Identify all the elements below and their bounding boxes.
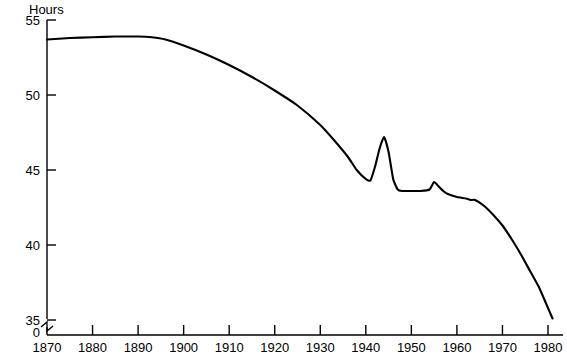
- axis-break-icon: [41, 322, 53, 331]
- series-line-0: [47, 36, 553, 318]
- chart-container: Hours 0 3540455055 187018801890190019101…: [0, 0, 567, 358]
- x-tick-label-1900: 1900: [169, 340, 198, 355]
- y-tick-label-35: 35: [26, 313, 40, 328]
- x-tick-label-1940: 1940: [351, 340, 380, 355]
- x-tick-label-1910: 1910: [215, 340, 244, 355]
- x-tick-label-1930: 1930: [306, 340, 335, 355]
- x-axis-ticks: 1870188018901900191019201930194019501960…: [33, 325, 563, 355]
- series-layer: [47, 36, 553, 318]
- y-tick-label-45: 45: [26, 163, 40, 178]
- x-tick-label-1920: 1920: [260, 340, 289, 355]
- y-tick-label-40: 40: [26, 238, 40, 253]
- x-tick-label-1870: 1870: [33, 340, 62, 355]
- x-tick-label-1960: 1960: [442, 340, 471, 355]
- y-axis-ticks: 3540455055: [26, 13, 56, 328]
- y-tick-label-55: 55: [26, 13, 40, 28]
- x-tick-label-1950: 1950: [397, 340, 426, 355]
- x-tick-label-1890: 1890: [124, 340, 153, 355]
- x-tick-label-1970: 1970: [488, 340, 517, 355]
- x-tick-label-1880: 1880: [78, 340, 107, 355]
- hours-line-chart: Hours 0 3540455055 187018801890190019101…: [0, 0, 567, 358]
- x-tick-label-1980: 1980: [534, 340, 563, 355]
- y-tick-label-50: 50: [26, 88, 40, 103]
